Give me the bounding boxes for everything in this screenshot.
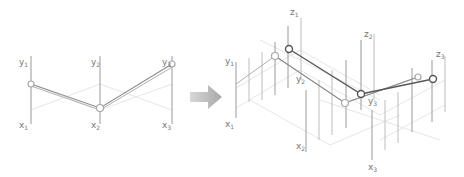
left-label-y2: y2 (91, 57, 100, 68)
left-label-x2: x2 (91, 120, 100, 131)
right-node-z1 (286, 46, 293, 53)
left-label-y1: y1 (19, 57, 28, 68)
right-label-z1: z1 (290, 7, 299, 18)
right-label-z2: z2 (364, 29, 373, 40)
right-node-z3 (430, 76, 437, 83)
right-node-y2 (342, 100, 349, 107)
left-label-x1: x1 (19, 120, 28, 131)
right-label-x3: x3 (368, 162, 377, 173)
left-label-x3: x3 (162, 120, 171, 131)
right-node-y3 (415, 74, 421, 80)
diagram-canvas: y1 y2 y3 x1 x2 x3 (0, 0, 464, 177)
right-panel: z1 z2 z3 y1 y2 y3 x1 x2 x3 (225, 7, 445, 173)
right-axis-group-3 (372, 56, 445, 160)
left-node-1 (28, 81, 34, 87)
right-label-z3: z3 (436, 49, 445, 60)
left-panel: y1 y2 y3 x1 x2 x3 (19, 56, 175, 131)
right-label-x1: x1 (225, 119, 234, 130)
right-polyline-light (236, 56, 418, 103)
right-grid (236, 40, 445, 145)
left-label-y3: y3 (162, 57, 171, 68)
left-node-2 (97, 105, 104, 112)
right-node-z2 (358, 91, 365, 98)
right-label-y1: y1 (225, 56, 234, 67)
right-label-x2: x2 (296, 141, 305, 152)
transform-arrow-icon (190, 85, 222, 109)
right-node-y1 (272, 53, 279, 60)
right-axis-group-1 (236, 18, 301, 118)
